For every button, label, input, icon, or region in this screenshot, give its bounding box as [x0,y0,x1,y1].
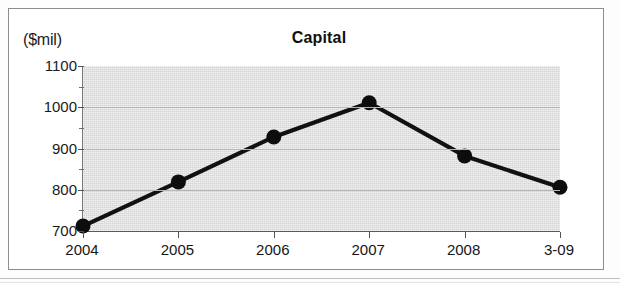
y-axis-tick-labels: 11001000900800700 [25,66,77,231]
x-tick-label-2004: 2004 [65,241,98,258]
scanned-page: ($mil) Capital 11001000900800700 2004200… [0,0,620,286]
plot-area [82,66,560,232]
chart-title: Capital [9,29,620,47]
x-tick-3-09 [560,232,561,238]
gridline-900 [83,149,560,150]
y-minor-tick-1050 [79,87,84,88]
x-tick-2005 [178,232,179,238]
x-tick-label-2007: 2007 [352,241,385,258]
x-tick-label-2006: 2006 [256,241,289,258]
y-tick-label-900: 900 [31,140,77,157]
x-tick-label-3-09: 3-09 [544,241,574,258]
gridline-800 [83,190,560,191]
y-tick-label-1100: 1100 [31,57,77,74]
y-tick-1100 [78,66,84,67]
y-tick-900 [78,149,84,150]
x-tick-2007 [369,232,370,238]
series-line-path [83,103,560,226]
x-tick-2008 [465,232,466,238]
y-tick-label-800: 800 [31,181,77,198]
data-point-2008 [457,148,472,163]
y-tick-1000 [78,107,84,108]
y-minor-tick-850 [79,169,84,170]
data-point-2006 [266,129,281,144]
x-axis-tick-labels: 200420052006200720083-09 [82,241,559,263]
y-minor-tick-750 [79,210,84,211]
y-minor-tick-950 [79,128,84,129]
scan-artifact-line-1 [0,278,620,279]
x-tick-label-2008: 2008 [447,241,480,258]
x-tick-label-2005: 2005 [161,241,194,258]
data-point-2005 [171,174,186,189]
x-tick-2006 [274,232,275,238]
scan-artifact-line-2 [0,282,620,283]
x-tick-2004 [83,232,84,238]
figure-frame: ($mil) Capital 11001000900800700 2004200… [8,8,604,270]
gridline-1000 [83,107,560,108]
y-tick-label-700: 700 [31,222,77,239]
y-tick-800 [78,190,84,191]
y-tick-label-1000: 1000 [31,98,77,115]
data-point-3-09 [553,180,568,195]
